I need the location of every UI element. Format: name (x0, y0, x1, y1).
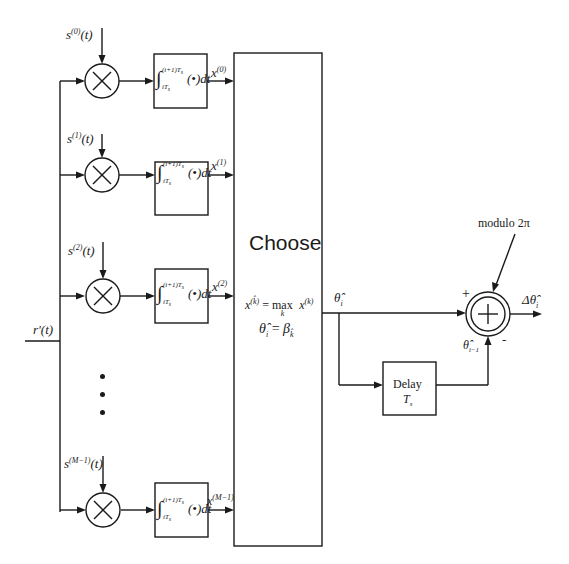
delay-label: Delay (393, 378, 422, 390)
delayed-signal-label: θ̂i−1 (463, 339, 479, 354)
branch-output-label-2: x(2) (212, 280, 227, 293)
branch-output-label-1: x(1) (211, 159, 226, 172)
ellipsis-dot-2 (100, 392, 105, 397)
ref-signal-label-m-minus-1: s(M−1)(t) (64, 457, 103, 470)
choose-equation-2: θ̂i = βk̂ (259, 322, 294, 339)
branch-output-label-m-minus-1: x(M−1) (207, 494, 234, 507)
summer-minus-sign: - (502, 333, 506, 346)
ellipsis-dot-3 (100, 410, 105, 415)
integrator-expr-0: ∫ (i+1)Ts iTs (•)dt (156, 70, 208, 94)
ref-signal-label-2: s(2)(t) (68, 244, 95, 257)
ref-signal-label-0: s(0)(t) (66, 28, 93, 41)
choose-output-label: θ̂i (334, 291, 343, 308)
final-output-label: Δθ̂i (522, 293, 538, 310)
ref-signal-label-1: s(1)(t) (67, 132, 94, 145)
summer-plus-sign: + (462, 287, 470, 301)
ellipsis-dot-1 (100, 374, 105, 379)
modulo-label: modulo 2π (478, 217, 530, 229)
input-label: r'(t) (33, 323, 53, 336)
choose-equation-1: x(k̂) = maxk x(k) (245, 298, 313, 314)
integrator-expr-1: ∫ (i+1)Ts iTs (•)dt (157, 164, 209, 188)
branch-output-label-0: x(0) (211, 66, 226, 79)
choose-title: Choose (249, 232, 321, 253)
integrator-expr-m-minus-1: ∫ (i+1)Ts iTs (•)dt (157, 500, 209, 524)
delay-param: Ts (403, 393, 412, 408)
integrator-expr-2: ∫ (i+1)Ts iTs (•)dt (157, 285, 209, 309)
diagram-canvas (0, 0, 569, 564)
modulo-arrow (496, 234, 515, 285)
